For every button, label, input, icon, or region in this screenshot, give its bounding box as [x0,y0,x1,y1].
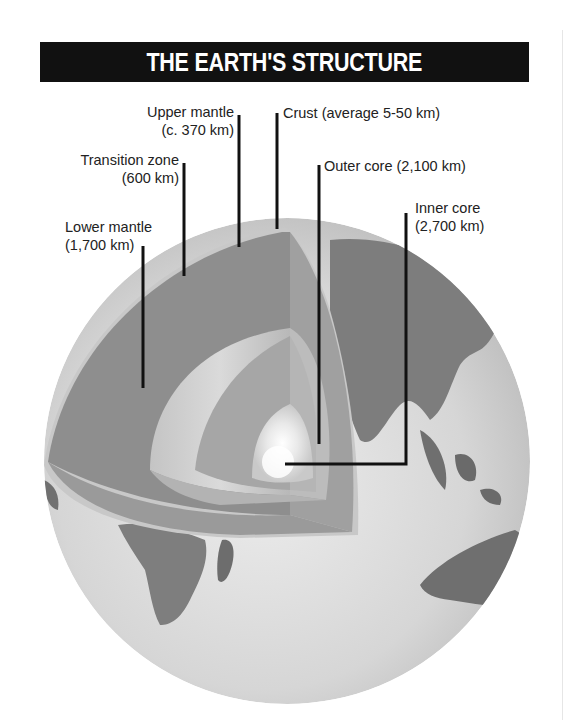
upper-mantle-depth: (c. 370 km) [130,121,234,139]
cutaway [44,228,358,538]
outer-core-name: Outer core (2,100 km) [324,157,466,175]
transition-zone-depth: (600 km) [62,169,179,187]
label-transition-zone: Transition zone (600 km) [62,151,179,187]
label-inner-core: Inner core (2,700 km) [415,199,484,235]
lower-mantle-depth: (1,700 km) [65,236,152,254]
inner-core-name: Inner core [415,199,484,217]
transition-zone-name: Transition zone [62,151,179,169]
label-crust: Crust (average 5-50 km) [283,104,440,122]
label-upper-mantle: Upper mantle (c. 370 km) [130,103,234,139]
label-outer-core: Outer core (2,100 km) [324,157,466,175]
label-lower-mantle: Lower mantle (1,700 km) [65,218,152,254]
upper-mantle-name: Upper mantle [130,103,234,121]
inner-core-glow [262,446,294,478]
lower-mantle-name: Lower mantle [65,218,152,236]
crust-name: Crust (average 5-50 km) [283,104,440,122]
inner-core-depth: (2,700 km) [415,217,484,235]
